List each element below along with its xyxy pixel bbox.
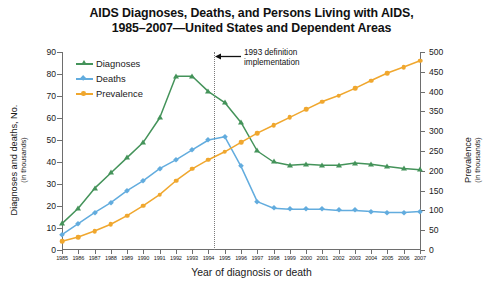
- data-point-prevalence: [288, 115, 293, 120]
- data-point-prevalence: [369, 78, 374, 83]
- data-point-diagnoses: [173, 73, 179, 78]
- data-point-prevalence: [385, 71, 390, 76]
- legend-label: Prevalence: [96, 88, 143, 99]
- data-point-prevalence: [336, 93, 341, 98]
- data-point-diagnoses: [271, 159, 277, 164]
- data-point-diagnoses: [384, 163, 390, 168]
- data-point-prevalence: [141, 203, 146, 208]
- data-point-prevalence: [92, 229, 97, 234]
- data-point-prevalence: [255, 131, 260, 136]
- data-point-diagnoses: [59, 221, 65, 226]
- data-point-diagnoses: [254, 148, 260, 153]
- data-point-prevalence: [418, 58, 423, 63]
- data-point-diagnoses: [222, 100, 228, 105]
- data-point-diagnoses: [157, 115, 163, 120]
- legend-label: Deaths: [96, 73, 126, 84]
- data-point-diagnoses: [319, 162, 325, 167]
- data-point-prevalence: [206, 157, 211, 162]
- data-point-prevalence: [304, 107, 309, 112]
- data-point-prevalence: [353, 86, 358, 91]
- data-point-diagnoses: [287, 162, 293, 167]
- data-point-prevalence: [157, 192, 162, 197]
- data-point-prevalence: [125, 213, 130, 218]
- chart-legend: DiagnosesDeathsPrevalence: [76, 56, 143, 101]
- data-point-prevalence: [271, 123, 276, 128]
- chart-figure: AIDS Diagnoses, Deaths, and Persons Livi…: [0, 0, 503, 287]
- data-point-diagnoses: [75, 205, 81, 210]
- legend-item-diagnoses[interactable]: Diagnoses: [76, 56, 143, 71]
- data-point-diagnoses: [336, 162, 342, 167]
- legend-item-prevalence[interactable]: Prevalence: [76, 86, 143, 101]
- data-point-prevalence: [60, 239, 65, 244]
- data-point-diagnoses: [124, 155, 130, 160]
- legend-marker-circle-icon: [76, 88, 93, 99]
- series-lines: [0, 0, 503, 287]
- data-point-diagnoses: [417, 167, 423, 172]
- data-point-diagnoses: [108, 170, 114, 175]
- data-point-prevalence: [76, 235, 81, 240]
- legend-marker-triangle-icon: [76, 58, 93, 69]
- data-point-prevalence: [239, 140, 244, 145]
- data-point-diagnoses: [401, 166, 407, 171]
- legend-marker-diamond-icon: [76, 73, 93, 84]
- data-point-diagnoses: [238, 119, 244, 124]
- data-point-diagnoses: [92, 185, 98, 190]
- legend-label: Diagnoses: [96, 58, 140, 69]
- data-point-diagnoses: [205, 89, 211, 94]
- data-point-prevalence: [190, 167, 195, 172]
- data-point-diagnoses: [352, 160, 358, 165]
- data-point-diagnoses: [140, 139, 146, 144]
- data-point-prevalence: [109, 222, 114, 227]
- data-point-diagnoses: [368, 161, 374, 166]
- data-point-prevalence: [320, 99, 325, 104]
- data-point-prevalence: [222, 149, 227, 154]
- series-line-deaths: [62, 137, 420, 235]
- data-point-prevalence: [174, 178, 179, 183]
- data-point-diagnoses: [303, 161, 309, 166]
- data-point-diagnoses: [189, 73, 195, 78]
- legend-item-deaths[interactable]: Deaths: [76, 71, 143, 86]
- data-point-prevalence: [401, 65, 406, 70]
